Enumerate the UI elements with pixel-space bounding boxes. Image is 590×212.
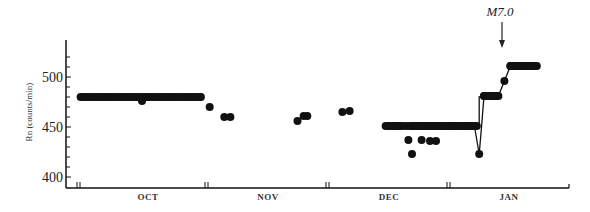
data-point bbox=[404, 136, 412, 144]
month-label-jan: JAN bbox=[500, 192, 519, 202]
earthquake-annotation: M7.0 bbox=[485, 4, 514, 19]
month-label-nov: NOV bbox=[257, 192, 279, 202]
ytick-500: 500 bbox=[42, 70, 63, 85]
data-point bbox=[346, 107, 354, 115]
month-label-oct: OCT bbox=[137, 192, 158, 202]
data-lines bbox=[474, 66, 510, 154]
data-point bbox=[206, 103, 214, 111]
month-dividers bbox=[77, 182, 450, 188]
data-point bbox=[226, 113, 234, 121]
ytick-450: 450 bbox=[42, 120, 63, 135]
down-arrow-icon bbox=[499, 22, 505, 48]
y-axis-label: Rn (counts/min) bbox=[24, 83, 34, 142]
radon-chart: 400 450 500 Rn (counts/min) OCT NOV DEC … bbox=[0, 0, 590, 212]
ytick-400: 400 bbox=[42, 170, 63, 185]
data-point bbox=[418, 136, 426, 144]
data-point bbox=[408, 150, 416, 158]
month-label-dec: DEC bbox=[379, 192, 400, 202]
data-points bbox=[77, 62, 541, 158]
data-point bbox=[338, 108, 346, 116]
data-point bbox=[303, 112, 311, 120]
data-point bbox=[432, 137, 440, 145]
